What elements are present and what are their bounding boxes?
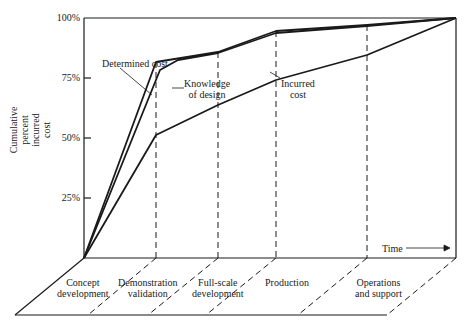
determined-cost-label: Determined cost <box>102 58 168 69</box>
incurred-cost-curve <box>84 18 456 258</box>
phase-full-scale-development: Full-scale development <box>192 277 244 299</box>
phase-line: validation <box>118 288 177 299</box>
phase-operations-support: Operations and support <box>355 277 402 299</box>
incurred-cost-label: Incurred cost <box>281 78 315 100</box>
ylabel-line: incurred <box>30 85 41 175</box>
phase-line: Demonstration <box>118 277 177 288</box>
knowledge-of-design-curve <box>84 18 456 258</box>
knowledge-line1: Knowledge <box>184 78 230 89</box>
phase-concept-development: Concept development <box>57 277 109 299</box>
phase-line: Concept <box>57 277 109 288</box>
ylabel-line: Cumulative <box>8 85 19 175</box>
phase-line: Full-scale <box>192 277 244 288</box>
incurred-line1: Incurred <box>281 78 315 89</box>
phase-production: Production <box>265 277 309 288</box>
y-axis-label: Cumulative percent incurred cost <box>8 85 52 175</box>
tick-25: 25% <box>46 192 80 203</box>
tick-75: 75% <box>46 72 80 83</box>
phase-line: Production <box>265 277 309 288</box>
knowledge-of-design-label: Knowledge of design <box>184 78 230 100</box>
phase-line: development <box>57 288 109 299</box>
knowledge-line2: of design <box>184 89 230 100</box>
phase-demonstration-validation: Demonstration validation <box>118 277 177 299</box>
ylabel-line: percent <box>19 85 30 175</box>
phase-line: Operations <box>355 277 402 288</box>
time-label: Time <box>382 243 403 254</box>
phase-line: development <box>192 288 244 299</box>
determined-cost-curve <box>84 18 456 258</box>
ylabel-line: cost <box>41 85 52 175</box>
incurred-line2: cost <box>281 89 315 100</box>
phase-line: and support <box>355 288 402 299</box>
tick-100: 100% <box>46 12 80 23</box>
